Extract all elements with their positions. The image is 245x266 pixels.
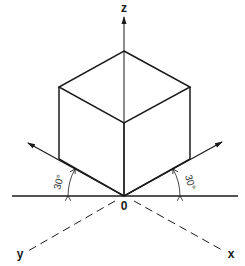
y-axis-label: y xyxy=(17,247,24,261)
right-angle-arc xyxy=(173,169,180,196)
x-axis-dashed xyxy=(134,201,222,250)
cube-bottom-left-edge xyxy=(59,159,124,196)
left-angle-arc xyxy=(68,169,75,196)
left-angle-label: 30° xyxy=(51,173,66,190)
origin-label: 0 xyxy=(121,199,128,213)
isometric-diagram: z 30° 30° 0 y x xyxy=(0,0,245,266)
y-axis-dashed xyxy=(28,201,115,251)
z-axis-label: z xyxy=(121,1,127,15)
x-axis-label: x xyxy=(228,247,235,261)
right-angle-label: 30° xyxy=(183,173,198,190)
